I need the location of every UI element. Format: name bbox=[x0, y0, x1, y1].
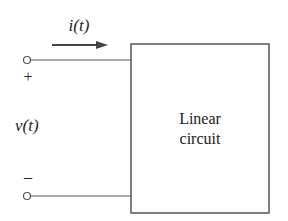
positive-terminal bbox=[24, 57, 31, 64]
plus-sign: + bbox=[23, 68, 32, 85]
negative-terminal bbox=[24, 193, 31, 200]
box-label-line2: circuit bbox=[180, 130, 221, 147]
current-label: i(t) bbox=[69, 16, 90, 35]
linear-circuit-box bbox=[131, 44, 269, 213]
box-label-line1: Linear bbox=[179, 110, 221, 127]
voltage-label: v(t) bbox=[15, 116, 39, 135]
minus-sign: – bbox=[23, 168, 33, 185]
circuit-diagram: i(t) + v(t) – Linear circuit bbox=[0, 0, 288, 221]
current-arrow-icon bbox=[52, 41, 108, 49]
